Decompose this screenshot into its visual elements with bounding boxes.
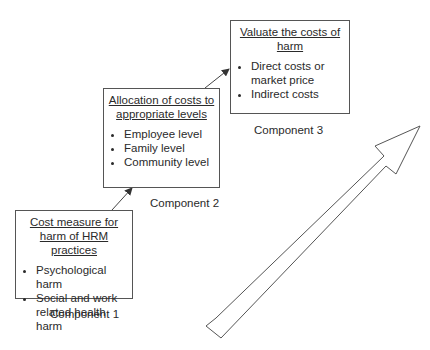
component-3-box: Valuate the costs of harm Direct costs o… bbox=[230, 20, 350, 114]
component-1-list: Psychological harm Social and work relat… bbox=[20, 263, 128, 333]
connector-arrow-2-to-3 bbox=[205, 69, 229, 88]
component-3-title: Valuate the costs of harm bbox=[235, 25, 345, 53]
component-3-list: Direct costs or market price Indirect co… bbox=[235, 59, 345, 101]
component-1-title: Cost measure for harm of HRM practices bbox=[20, 215, 128, 257]
component-1-box: Cost measure for harm of HRM practices P… bbox=[15, 210, 133, 299]
component-1-label: Component 1 bbox=[50, 308, 119, 320]
connector-arrow-1-to-2 bbox=[112, 188, 132, 210]
component-2-title: Allocation of costs to appropriate level… bbox=[108, 93, 215, 121]
progress-arrow-icon bbox=[206, 126, 420, 338]
component-2-list: Employee level Family level Community le… bbox=[108, 127, 215, 169]
list-item: Family level bbox=[124, 141, 215, 155]
component-2-label: Component 2 bbox=[150, 197, 219, 209]
list-item: Direct costs or market price bbox=[251, 59, 345, 87]
component-2-box: Allocation of costs to appropriate level… bbox=[103, 88, 220, 188]
list-item: Employee level bbox=[124, 127, 215, 141]
list-item: Community level bbox=[124, 155, 215, 169]
component-3-label: Component 3 bbox=[254, 124, 323, 136]
list-item: Indirect costs bbox=[251, 87, 345, 101]
list-item: Psychological harm bbox=[36, 263, 128, 291]
